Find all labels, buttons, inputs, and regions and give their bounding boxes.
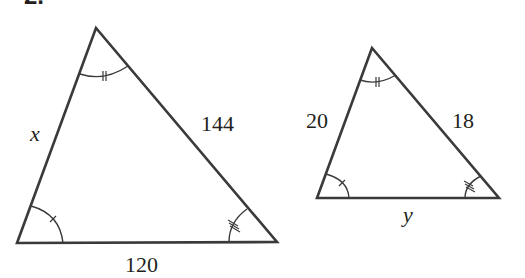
bottom-right-angle-arc-icon [465,176,481,198]
large-triangle-outline [17,28,277,243]
bottom-left-angle-arc-icon [31,206,63,243]
label-144: 144 [201,111,234,136]
bottom-left-angle-arc-icon [326,174,349,198]
problem-number: 2. [24,0,44,9]
label-18: 18 [452,108,474,133]
label-x: x [29,121,40,146]
similar-triangles-diagram: 2. x 144 120 20 18 y [0,0,525,278]
large-triangle [17,28,277,243]
apex-angle-arc-icon [360,75,396,82]
label-120: 120 [125,252,158,277]
label-y: y [401,202,413,227]
label-20: 20 [306,108,328,133]
apex-angle-arc-icon [80,66,128,77]
